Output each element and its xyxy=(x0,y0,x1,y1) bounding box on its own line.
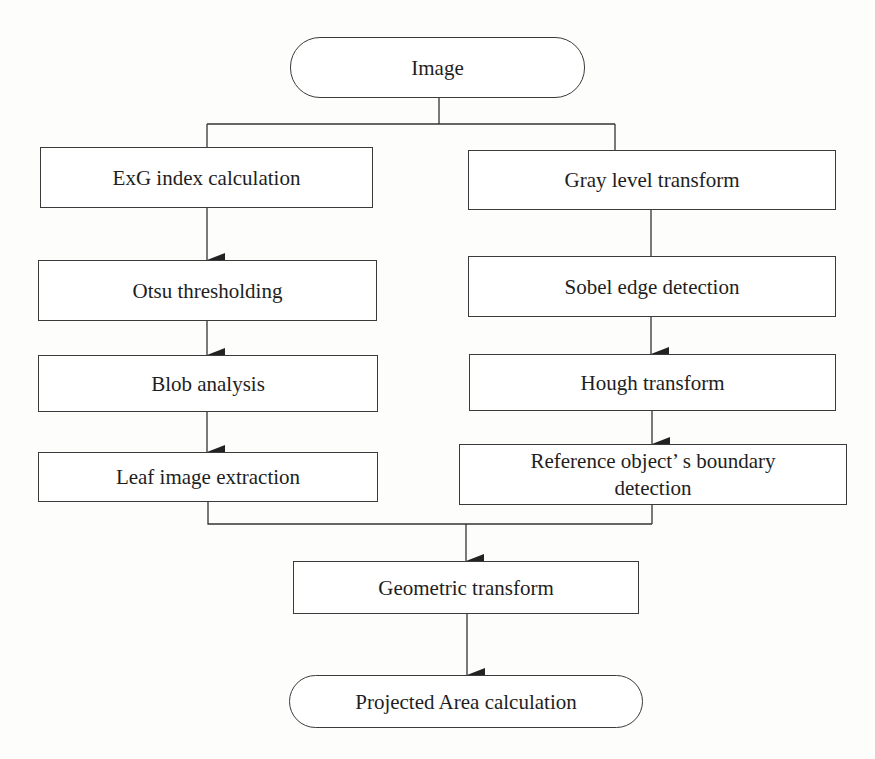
node-reference-boundary-detection: Reference object’ s boundary detection xyxy=(459,444,847,505)
node-blob-label: Blob analysis xyxy=(151,371,265,397)
node-leaf-label: Leaf image extraction xyxy=(116,464,300,490)
node-gray-level-transform: Gray level transform xyxy=(468,150,836,210)
node-blob-analysis: Blob analysis xyxy=(38,355,378,412)
node-projected-area-calculation: Projected Area calculation xyxy=(289,675,643,728)
node-leaf-image-extraction: Leaf image extraction xyxy=(38,452,378,502)
node-hough-label: Hough transform xyxy=(580,370,724,396)
node-exg-index-calculation: ExG index calculation xyxy=(40,147,373,208)
node-exg-label: ExG index calculation xyxy=(113,165,301,191)
node-image-label: Image xyxy=(411,55,463,81)
node-image: Image xyxy=(290,37,585,98)
node-geometric-label: Geometric transform xyxy=(378,575,554,601)
node-sobel-edge-detection: Sobel edge detection xyxy=(468,256,836,317)
node-projected-label: Projected Area calculation xyxy=(355,689,577,715)
node-reference-label-line1: Reference object’ s boundary xyxy=(530,448,775,475)
edge-leaf-merge xyxy=(208,502,652,524)
flowchart-canvas: Image ExG index calculation Otsu thresho… xyxy=(0,0,875,759)
node-sobel-label: Sobel edge detection xyxy=(565,274,740,300)
node-reference-label-line2: detection xyxy=(615,475,692,502)
node-otsu-thresholding: Otsu thresholding xyxy=(38,260,377,321)
node-otsu-label: Otsu thresholding xyxy=(133,278,283,304)
node-geometric-transform: Geometric transform xyxy=(293,561,639,614)
node-hough-transform: Hough transform xyxy=(469,354,836,411)
node-gray-label: Gray level transform xyxy=(565,167,740,193)
